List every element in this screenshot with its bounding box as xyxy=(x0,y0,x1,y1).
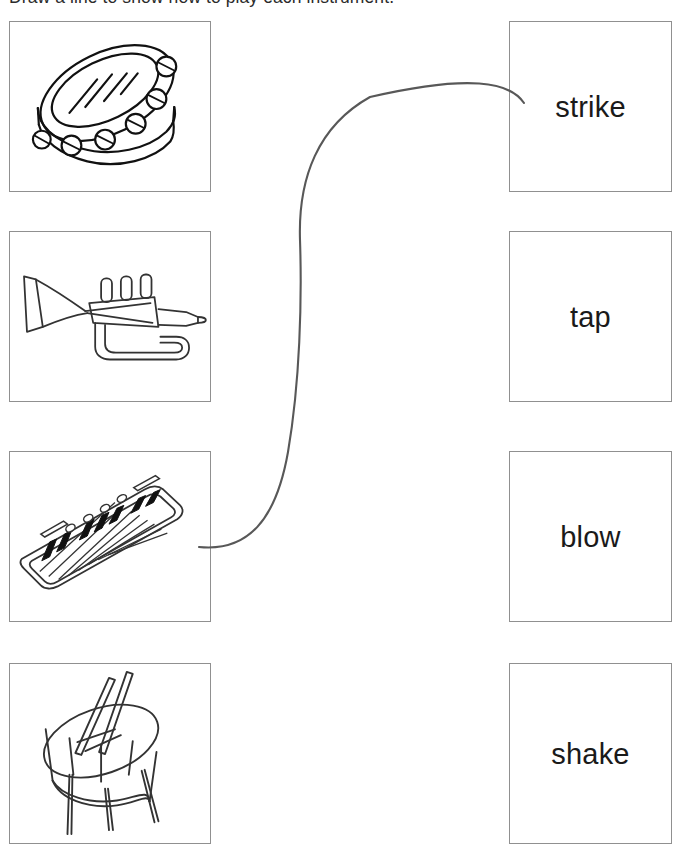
match-line-keyboard-to-strike xyxy=(199,83,524,547)
trumpet-icon xyxy=(10,232,210,401)
action-label: strike xyxy=(510,92,671,121)
action-label: blow xyxy=(510,522,671,551)
action-card-shake[interactable]: shake xyxy=(509,663,672,844)
action-card-strike[interactable]: strike xyxy=(509,21,672,192)
worksheet-page: Draw a line to show how to play each ins… xyxy=(0,0,682,855)
action-label: tap xyxy=(510,302,671,331)
action-card-tap[interactable]: tap xyxy=(509,231,672,402)
worksheet-instruction: Draw a line to show how to play each ins… xyxy=(9,0,669,8)
drum-icon xyxy=(10,664,210,843)
action-label: shake xyxy=(510,739,671,768)
instrument-card-tambourine[interactable] xyxy=(9,21,211,192)
tambourine-icon xyxy=(10,22,210,191)
action-card-blow[interactable]: blow xyxy=(509,451,672,622)
instrument-card-drum[interactable] xyxy=(9,663,211,844)
instrument-card-trumpet[interactable] xyxy=(9,231,211,402)
instrument-card-keyboard[interactable] xyxy=(9,451,211,622)
keyboard-icon xyxy=(10,452,210,621)
